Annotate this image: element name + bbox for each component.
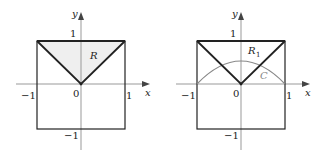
tick-x-neg: −1 (181, 90, 196, 101)
tick-x-neg: −1 (21, 90, 36, 101)
tick-y-neg: −1 (64, 130, 79, 141)
tick-origin: 0 (233, 88, 239, 99)
x-axis-label: x (305, 87, 311, 98)
y-axis-label: y (231, 8, 238, 19)
region-label-subscript: 1 (256, 51, 260, 59)
origin-dot (80, 83, 83, 86)
tick-origin: 0 (73, 88, 79, 99)
tick-y-pos: 1 (70, 28, 76, 39)
left-figure: y x 1 −1 −1 0 1 R (16, 8, 151, 150)
tick-y-pos: 1 (230, 28, 236, 39)
origin-dot (240, 83, 243, 86)
right-figure: y x 1 −1 −1 0 1 R 1 C (176, 8, 311, 150)
tick-y-neg: −1 (224, 130, 239, 141)
y-axis-arrow-icon (238, 12, 244, 20)
curve-label-c: C (260, 70, 268, 81)
x-axis-label: x (145, 87, 151, 98)
y-axis-label: y (71, 8, 78, 19)
diagram-canvas: y x 1 −1 −1 0 1 R y x 1 −1 −1 0 1 R 1 C (0, 0, 325, 157)
tick-x-pos: 1 (126, 90, 132, 101)
y-axis-arrow-icon (78, 12, 84, 20)
region-label-r: R (89, 50, 98, 61)
region-label-r1: R (247, 45, 256, 56)
tick-x-pos: 1 (286, 90, 292, 101)
